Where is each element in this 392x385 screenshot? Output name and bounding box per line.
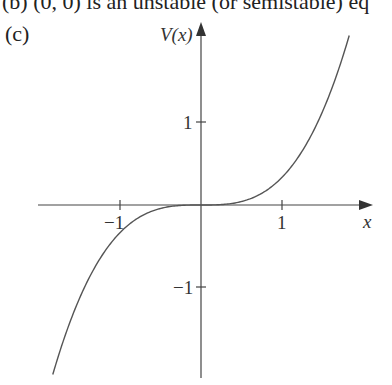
x-tick-label-1: 1 <box>277 212 287 233</box>
potential-plot: −1 1 1 −1 x V(x) <box>0 0 392 385</box>
y-tick-label-neg1: −1 <box>173 277 193 298</box>
y-axis-label: V(x) <box>160 24 193 46</box>
x-tick-label-neg1: −1 <box>104 212 124 233</box>
x-axis-label: x <box>362 211 372 232</box>
x-axis-arrow-icon <box>359 200 373 210</box>
y-axis-arrow-icon <box>196 22 206 36</box>
y-tick-label-1: 1 <box>183 112 193 133</box>
